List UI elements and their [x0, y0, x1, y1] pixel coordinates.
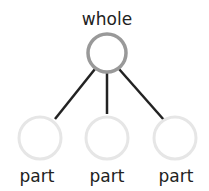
part-whole-diagram: whole part part part [0, 0, 209, 191]
part-label-3: part [159, 166, 194, 186]
connector-line-right [119, 69, 164, 120]
part-label-2: part [90, 166, 125, 186]
part-label-1: part [20, 166, 55, 186]
whole-circle[interactable] [88, 34, 126, 72]
part-circle-2[interactable] [86, 117, 128, 159]
part-circle-1[interactable] [19, 117, 61, 159]
connector-line-left [55, 69, 95, 119]
part-circle-3[interactable] [154, 117, 196, 159]
whole-label: whole [82, 9, 132, 29]
